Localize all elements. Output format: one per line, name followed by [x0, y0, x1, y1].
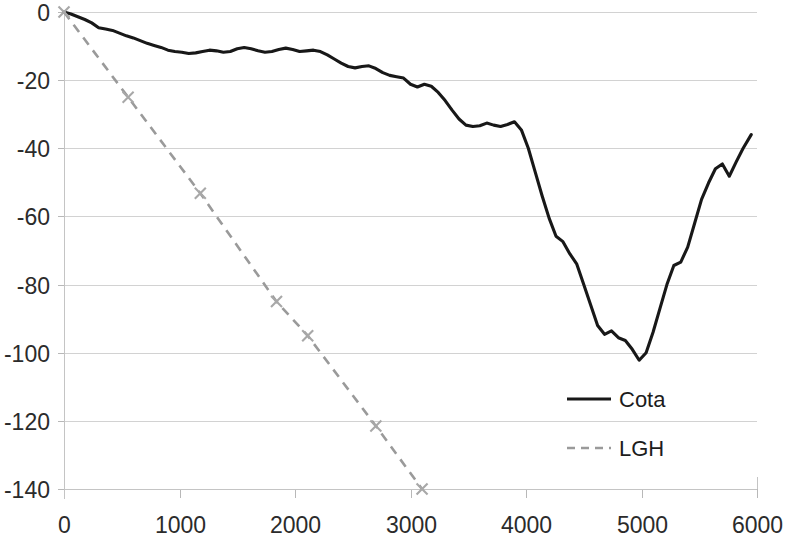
x-axis-tick-labels: 0100020003000400050006000 — [58, 512, 783, 538]
y-axis-tick-label: 0 — [37, 0, 50, 26]
x-axis-tick-label: 3000 — [386, 512, 437, 538]
y-axis-tick-label: -40 — [17, 136, 50, 162]
y-axis-tick-label: -60 — [17, 204, 50, 230]
legend-item-cota[interactable]: Cota — [567, 387, 666, 412]
data-point-marker-lgh — [370, 420, 381, 431]
legend-item-lgh[interactable]: LGH — [567, 436, 664, 461]
axis-ticks — [58, 13, 758, 499]
x-axis-tick-label: 2000 — [270, 512, 321, 538]
data-point-marker-lgh — [302, 330, 313, 341]
data-point-marker-lgh — [271, 296, 282, 307]
x-axis-tick-label: 1000 — [155, 512, 206, 538]
x-axis-tick-label: 4000 — [501, 512, 552, 538]
line-chart: 0-20-40-60-80-100-120-140 01000200030004… — [0, 0, 786, 545]
legend-label-cota: Cota — [619, 387, 666, 412]
data-point-marker-lgh — [195, 188, 206, 199]
y-axis-tick-label: -80 — [17, 273, 50, 299]
y-axis-tick-label: -100 — [4, 341, 50, 367]
data-series — [64, 12, 751, 489]
x-axis-tick-label: 0 — [58, 512, 71, 538]
y-axis-tick-label: -20 — [17, 68, 50, 94]
legend-label-lgh: LGH — [619, 436, 664, 461]
series-line-cota — [64, 12, 751, 360]
x-axis-tick-label: 5000 — [617, 512, 668, 538]
chart-legend: CotaLGH — [567, 387, 666, 461]
y-axis-tick-labels: 0-20-40-60-80-100-120-140 — [4, 0, 50, 503]
series-line-lgh — [64, 12, 422, 489]
x-axis-tick-label: 6000 — [732, 512, 783, 538]
y-axis-tick-label: -140 — [4, 477, 50, 503]
data-point-marker-lgh — [123, 92, 134, 103]
chart-container: 0-20-40-60-80-100-120-140 01000200030004… — [0, 0, 786, 545]
y-axis-tick-label: -120 — [4, 409, 50, 435]
